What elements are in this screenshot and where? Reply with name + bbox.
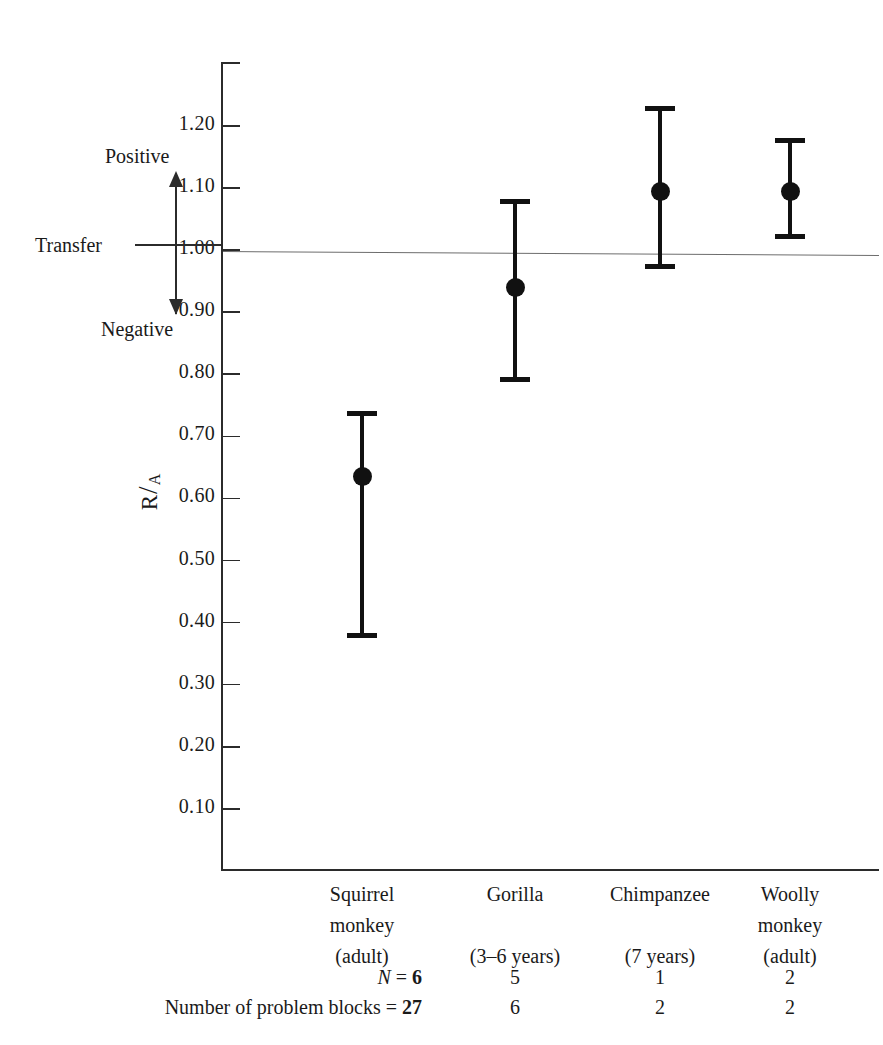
- y-tick-mark: [223, 125, 240, 127]
- error-bar-cap-upper: [645, 106, 675, 111]
- y-axis-title-slash: /: [133, 485, 163, 495]
- y-tick-mark: [223, 249, 240, 251]
- x-category-label-line: Squirrel: [277, 879, 447, 910]
- negative-label: Negative: [101, 318, 173, 341]
- y-tick-mark: [223, 498, 240, 500]
- error-bar-cap-lower: [500, 377, 530, 382]
- data-point-marker[interactable]: [781, 182, 800, 201]
- transfer-vertical-arrow-line: [175, 177, 177, 314]
- y-axis-title-main: R: [137, 495, 162, 510]
- y-tick-label: 0.80: [145, 360, 215, 383]
- transfer-leader-line: [135, 244, 223, 246]
- arrow-down-icon: [169, 299, 183, 315]
- x-category-label: Squirrelmonkey(adult): [277, 879, 447, 972]
- transfer-label: Transfer: [35, 234, 102, 257]
- y-tick-mark: [223, 684, 240, 686]
- footer-cell-value: 2: [600, 996, 720, 1019]
- data-point-marker[interactable]: [506, 278, 525, 297]
- footer-cell-value: 27: [402, 996, 422, 1018]
- unity-reference-line: [223, 251, 879, 256]
- x-category-label-line: monkey: [277, 910, 447, 941]
- y-tick-mark: [223, 808, 240, 810]
- y-tick-mark: [223, 373, 240, 375]
- y-tick-label: 1.20: [145, 112, 215, 135]
- x-category-label-line: Woolly: [705, 879, 875, 910]
- y-tick-label: 0.30: [145, 671, 215, 694]
- error-bar-cap-lower: [645, 264, 675, 269]
- footer-cell-value: 1: [600, 966, 720, 989]
- footer-table: N = 6512Number of problem blocks = 27622: [0, 966, 883, 1026]
- footer-row-equals: =: [391, 966, 412, 988]
- error-bar-cap-lower: [775, 234, 805, 239]
- footer-row-label: Number of problem blocks = 27: [22, 996, 422, 1019]
- x-category-label: Woollymonkey(adult): [705, 879, 875, 972]
- y-axis-title: R/A: [118, 462, 178, 522]
- positive-label: Positive: [105, 145, 169, 168]
- y-tick-label: 0.10: [145, 795, 215, 818]
- y-tick-mark: [223, 622, 240, 624]
- y-tick-label: 0.40: [145, 609, 215, 632]
- x-axis-line: [221, 869, 879, 871]
- footer-row: Number of problem blocks = 27622: [0, 996, 883, 1026]
- y-tick-mark: [223, 187, 240, 189]
- error-bar-cap-upper: [775, 138, 805, 143]
- error-bar-line: [360, 411, 364, 638]
- footer-row-label-text: Number of problem blocks: [165, 996, 381, 1018]
- footer-row-label: N = 6: [22, 966, 422, 989]
- figure-panel: 1.201.101.000.900.800.700.600.500.400.30…: [0, 0, 883, 1045]
- x-category-label-line: monkey: [705, 910, 875, 941]
- y-tick-label: 0.20: [145, 733, 215, 756]
- footer-cell-value: 2: [730, 996, 850, 1019]
- y-tick-mark: [223, 560, 240, 562]
- footer-row-label-text: N: [377, 966, 390, 988]
- error-bar-cap-upper: [347, 411, 377, 416]
- footer-cell-value: 6: [412, 966, 422, 988]
- data-point-marker[interactable]: [353, 467, 372, 486]
- footer-cell-value: 2: [730, 966, 850, 989]
- y-axis-top-bracket: [221, 62, 240, 64]
- y-tick-mark: [223, 436, 240, 438]
- data-point-marker[interactable]: [651, 182, 670, 201]
- y-tick-mark: [223, 746, 240, 748]
- footer-cell-value: 6: [455, 996, 575, 1019]
- error-bar-cap-upper: [500, 199, 530, 204]
- y-tick-label: 0.70: [145, 422, 215, 445]
- footer-row-equals: =: [381, 996, 402, 1018]
- footer-cell-value: 5: [455, 966, 575, 989]
- transfer-annotation: Positive Transfer Negative: [35, 155, 225, 350]
- error-bar-cap-lower: [347, 633, 377, 638]
- y-tick-label: 0.50: [145, 547, 215, 570]
- y-tick-mark: [223, 311, 240, 313]
- footer-row: N = 6512: [0, 966, 883, 996]
- y-axis-title-subscript: A: [146, 474, 163, 486]
